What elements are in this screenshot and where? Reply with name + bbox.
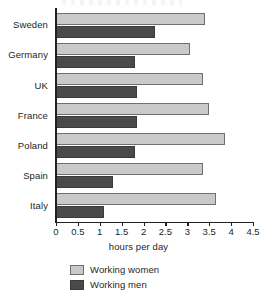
bar-group: [56, 10, 253, 40]
bar-group: [56, 161, 253, 191]
bar-group: [56, 131, 253, 161]
x-tick-label: 3: [185, 227, 190, 237]
bar-france-men: [56, 116, 137, 128]
legend-item-working-men: Working men: [70, 277, 159, 292]
bar-spain-men: [56, 176, 113, 188]
x-tick-label: 1: [97, 227, 102, 237]
category-axis-labels: Sweden Germany UK France Poland Spain It…: [0, 10, 52, 221]
bar-group: [56, 100, 253, 130]
x-tick-label: 2: [141, 227, 146, 237]
bars-container: [56, 10, 253, 221]
x-tick-label: 4: [228, 227, 233, 237]
legend-label: Working men: [90, 280, 147, 290]
y-axis-line: [55, 8, 57, 223]
x-tick-label: 1.5: [115, 227, 128, 237]
category-label: Spain: [0, 161, 52, 191]
bar-group: [56, 40, 253, 70]
x-tick-label: 0.5: [71, 227, 84, 237]
bar-sweden-women: [56, 13, 205, 25]
x-tick-label: 0: [53, 227, 58, 237]
x-axis-line: [55, 222, 254, 223]
bar-group: [56, 70, 253, 100]
plot-area: Sweden Germany UK France Poland Spain It…: [0, 0, 277, 226]
category-label: France: [0, 100, 52, 130]
bar-uk-men: [56, 86, 137, 98]
x-tick-label: 4.5: [246, 227, 259, 237]
legend-item-working-women: Working women: [70, 262, 159, 277]
x-axis-title: hours per day: [0, 241, 277, 252]
bar-poland-women: [56, 133, 225, 145]
legend-swatch-icon: [70, 280, 84, 290]
bar-sweden-men: [56, 26, 155, 38]
x-tick-label: 2.5: [159, 227, 172, 237]
category-label: Poland: [0, 131, 52, 161]
bar-group: [56, 191, 253, 221]
legend-swatch-icon: [70, 265, 84, 275]
bar-germany-women: [56, 43, 190, 55]
category-label: Germany: [0, 40, 52, 70]
bar-poland-men: [56, 146, 135, 158]
bar-spain-women: [56, 163, 203, 175]
category-label: UK: [0, 70, 52, 100]
bar-france-women: [56, 103, 209, 115]
bar-germany-men: [56, 56, 135, 68]
legend: Working women Working men: [70, 262, 159, 292]
bar-chart: Sweden Germany UK France Poland Spain It…: [0, 0, 277, 304]
legend-label: Working women: [90, 265, 159, 275]
bar-italy-women: [56, 193, 216, 205]
category-label: Sweden: [0, 10, 52, 40]
x-tick-label: 3.5: [203, 227, 216, 237]
category-label: Italy: [0, 191, 52, 221]
bar-italy-men: [56, 206, 104, 218]
bar-uk-women: [56, 73, 203, 85]
